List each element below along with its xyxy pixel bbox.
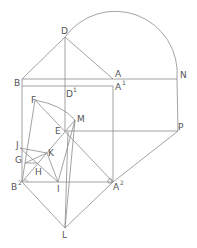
line-p-a2 [113, 131, 178, 182]
label-d1-sup: 1 [73, 86, 77, 93]
label-i: I [57, 184, 60, 194]
label-b: B [14, 78, 20, 88]
line-b-d [22, 37, 65, 79]
label-b2-sup: 2 [18, 179, 22, 186]
label-p: P [178, 122, 184, 132]
label-k: K [48, 148, 55, 158]
label-j: J [15, 140, 19, 150]
label-b2: B [11, 182, 17, 192]
label-l: L [62, 230, 67, 240]
line-g-k [25, 153, 47, 163]
line-l-a2 [65, 182, 113, 228]
label-a1-sup: 1 [122, 79, 126, 86]
label-a2-sup: 2 [120, 179, 124, 186]
label-a1: A [115, 82, 122, 92]
line-f-b2 [22, 100, 35, 182]
arc-f-m [35, 100, 75, 120]
line-d-a [65, 37, 113, 79]
label-g: G [15, 155, 22, 165]
line-f-a2 [35, 100, 113, 182]
label-d: D [61, 26, 68, 36]
label-f: F [31, 95, 36, 105]
label-d1: D [66, 89, 73, 99]
line-j-k [20, 148, 47, 153]
geometry-diagram: D B A N D 1 A 1 F M E P J G K H B 2 I A … [0, 0, 197, 248]
label-e: E [55, 126, 61, 136]
label-n: N [180, 70, 187, 80]
label-m: M [77, 114, 85, 124]
label-a: A [115, 69, 122, 79]
label-a2: A [113, 182, 120, 192]
label-h: H [35, 167, 42, 177]
